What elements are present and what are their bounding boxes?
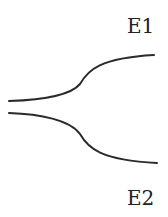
lower-branch-curve [9,113,157,163]
label-e2: E2 [127,186,154,210]
branching-diagram: E1 E2 [0,0,168,217]
upper-branch-curve [9,55,154,101]
label-e1: E1 [127,14,154,38]
